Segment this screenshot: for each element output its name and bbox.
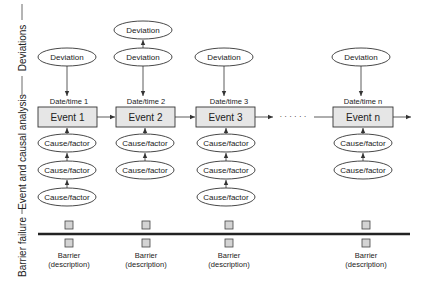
cause-label: Cause/factor [203, 139, 249, 148]
barrier-description: (description) [48, 260, 90, 269]
event-causal-label: Event and causal analysis [17, 94, 28, 210]
barrier-marker-bottom[interactable] [225, 239, 233, 247]
cause-label: Cause/factor [203, 193, 249, 202]
cause-label: Cause/factor [340, 139, 386, 148]
barrier-marker-top[interactable] [65, 221, 73, 229]
barrier-label: Barrier [58, 251, 81, 260]
column-1: Deviation Date/time 1 Event 1 Cause/fact… [38, 48, 97, 206]
date-label: Date/time n [344, 97, 382, 106]
deviation-label: Deviation [126, 26, 159, 35]
cause-label: Cause/factor [44, 193, 90, 202]
barrier-marker-top[interactable] [362, 221, 370, 229]
cause-label: Cause/factor [340, 166, 386, 175]
barrier-marker-top[interactable] [225, 221, 233, 229]
column-n: Deviation Date/time n Event n Cause/fact… [332, 48, 393, 179]
cause-label: Cause/factor [44, 139, 90, 148]
barrier-n: Barrier (description) [345, 221, 387, 269]
barrier-label: Barrier [355, 251, 378, 260]
barrier-1: Barrier (description) [48, 221, 90, 269]
continuation-dots: · · · · · · [279, 112, 306, 121]
deviation-label: Deviation [50, 53, 83, 62]
barrier-description: (description) [208, 260, 250, 269]
barrier-marker-bottom[interactable] [142, 239, 150, 247]
deviation-label: Deviation [207, 53, 240, 62]
side-label-deviations: Deviations [17, 4, 28, 96]
barrier-marker-bottom[interactable] [362, 239, 370, 247]
column-3: Deviation Date/time 3 Event 3 Cause/fact… [195, 48, 255, 206]
barrier-3: Barrier (description) [208, 221, 250, 269]
side-label-event-causal: Event and causal analysis [17, 94, 28, 214]
date-label: Date/time 3 [210, 97, 248, 106]
column-2: Deviation Deviation Date/time 2 Event 2 … [114, 21, 175, 179]
cause-label: Cause/factor [122, 139, 168, 148]
deviation-label: Deviation [344, 53, 377, 62]
deviation-label: Deviation [126, 53, 159, 62]
barrier-description: (description) [345, 260, 387, 269]
cause-label: Cause/factor [122, 166, 168, 175]
date-label: Date/time 2 [127, 97, 165, 106]
event-label: Event 3 [209, 112, 243, 123]
event-label: Event 2 [129, 112, 163, 123]
barrier-failure-label: Barrier failure [17, 217, 28, 277]
barrier-label: Barrier [135, 251, 158, 260]
event-label: Event n [346, 112, 380, 123]
barrier-description: (description) [125, 260, 167, 269]
barrier-marker-top[interactable] [142, 221, 150, 229]
cause-label: Cause/factor [44, 166, 90, 175]
date-label: Date/time 1 [50, 97, 88, 106]
barrier-2: Barrier (description) [125, 221, 167, 269]
barrier-marker-bottom[interactable] [65, 239, 73, 247]
event-causal-diagram: Deviations Event and causal analysis Bar… [0, 0, 429, 284]
deviations-label: Deviations [17, 25, 28, 72]
side-label-barrier: Barrier failure [17, 217, 28, 277]
cause-label: Cause/factor [203, 166, 249, 175]
event-label: Event 1 [51, 112, 85, 123]
barrier-label: Barrier [218, 251, 241, 260]
